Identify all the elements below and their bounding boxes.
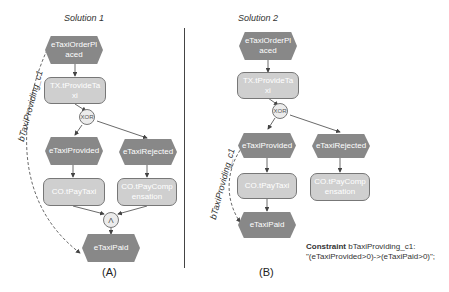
and-gateway: Λ — [103, 212, 119, 228]
solution1-title: Solution 1 — [64, 13, 104, 23]
event-taxi-rejected: eTaxiRejected — [312, 134, 370, 158]
divider — [184, 28, 185, 268]
event-taxi-paid: eTaxiPaid — [238, 212, 296, 238]
constraint-definition: Constraint bTaxiProviding_c1: "(eTaxiPro… — [306, 242, 435, 262]
solution2-title: Solution 2 — [238, 13, 278, 23]
event-taxi-rejected: eTaxiRejected — [119, 139, 177, 165]
function-pay-taxi: CO.tPayTaxi — [237, 173, 297, 199]
function-pay-compensation: CO.tPayComp ensation — [117, 178, 177, 206]
function-provide-taxi: TX.tProvideTa xi — [237, 72, 299, 99]
event-taxi-provided: eTaxiProvided — [238, 133, 296, 158]
function-provide-taxi: TX.tProvideTa xi — [44, 77, 106, 104]
event-order-placed: eTaxiOrderPl aced — [45, 36, 103, 64]
xor-gateway: XOR — [79, 109, 95, 125]
xor-gateway: XOR — [272, 103, 288, 119]
constraint-expression: "(eTaxiProvided>0)->(eTaxiPaid>0)"; — [306, 252, 435, 261]
constraint-keyword: Constraint — [306, 242, 346, 251]
function-pay-compensation: CO.tPayComp ensation — [310, 173, 370, 201]
caption-b: (B) — [259, 266, 274, 278]
constraint-name: bTaxiProviding_c1: — [348, 242, 415, 251]
function-pay-taxi: CO.tPayTaxi — [43, 178, 105, 206]
event-taxi-paid: eTaxiPaid — [82, 234, 140, 262]
event-taxi-provided: eTaxiProvided — [45, 137, 103, 165]
caption-a: (A) — [102, 266, 117, 278]
event-order-placed: eTaxiOrderPl aced — [239, 32, 297, 60]
